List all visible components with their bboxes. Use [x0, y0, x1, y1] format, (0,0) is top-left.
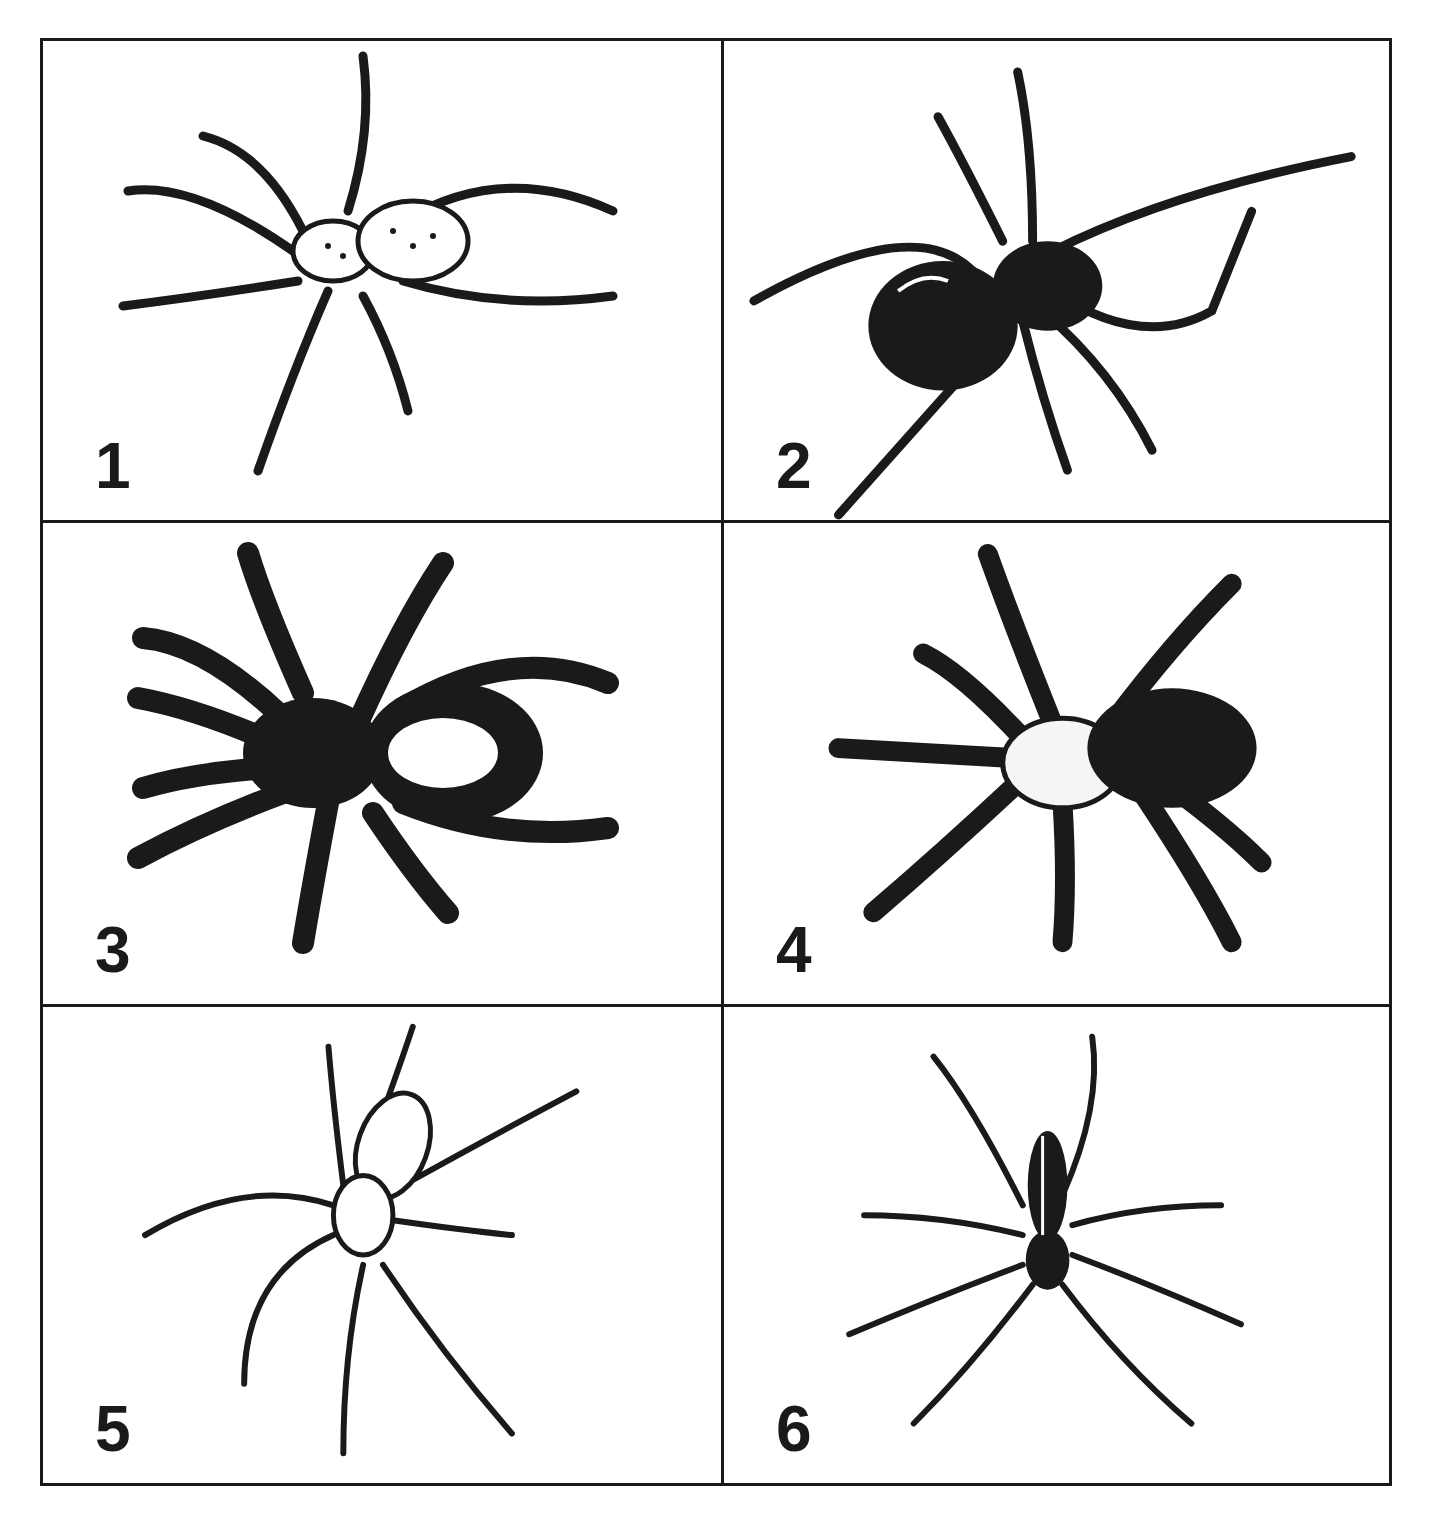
spider-illustration-1 — [43, 41, 721, 520]
panel-5: 5 — [43, 1007, 724, 1483]
spider-illustration-5 — [43, 1007, 721, 1483]
spider-illustration-6 — [724, 1007, 1389, 1483]
panel-1: 1 — [43, 41, 724, 523]
panel-6: 6 — [724, 1007, 1389, 1483]
panel-label-5: 5 — [95, 1397, 131, 1461]
spider-illustration-4 — [724, 523, 1389, 1004]
panel-2: 2 — [724, 41, 1389, 523]
spider-figure-grid: 1 2 — [40, 38, 1392, 1486]
panel-4: 4 — [724, 523, 1389, 1007]
spider-illustration-2 — [724, 41, 1389, 520]
panel-label-2: 2 — [776, 434, 812, 498]
panel-label-1: 1 — [95, 434, 131, 498]
panel-label-3: 3 — [95, 918, 131, 982]
panel-label-6: 6 — [776, 1397, 812, 1461]
spider-illustration-3 — [43, 523, 721, 1004]
panel-3: 3 — [43, 523, 724, 1007]
panel-label-4: 4 — [776, 918, 812, 982]
